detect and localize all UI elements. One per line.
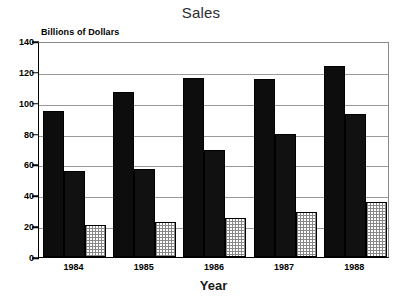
bar-1987-series-3 — [296, 212, 317, 257]
bar-1987-series-2 — [275, 134, 296, 257]
x-tick-label: 1984 — [44, 262, 104, 272]
bar-group — [250, 43, 320, 257]
y-axis-title: Billions of Dollars — [41, 27, 119, 37]
bar-1984-series-3 — [85, 225, 106, 257]
bar-group — [39, 43, 109, 257]
sales-bar-chart: Sales Billions of Dollars 02040608010012… — [0, 0, 402, 307]
x-tick-label: 1985 — [114, 262, 174, 272]
bar-1984-series-1 — [43, 111, 64, 257]
plot-area — [38, 42, 389, 258]
bar-1986-series-2 — [204, 150, 225, 257]
bar-group — [320, 43, 390, 257]
bar-1986-series-3 — [225, 218, 246, 257]
bar-1986-series-1 — [183, 78, 204, 257]
bar-1987-series-1 — [254, 79, 275, 257]
bar-1988-series-3 — [366, 202, 387, 257]
bar-1985-series-2 — [134, 169, 155, 257]
x-tick-label: 1986 — [184, 262, 244, 272]
bar-group — [179, 43, 249, 257]
bar-1984-series-2 — [64, 171, 85, 257]
x-tick-label: 1987 — [254, 262, 314, 272]
x-axis-title: Year — [38, 278, 389, 293]
y-axis-tick-labels: 020406080100120140 — [0, 42, 34, 258]
bar-1988-series-1 — [324, 66, 345, 257]
chart-title: Sales — [0, 4, 402, 21]
bar-1985-series-3 — [155, 222, 176, 257]
bars-layer — [39, 43, 388, 257]
bar-1988-series-2 — [345, 114, 366, 257]
bar-group — [109, 43, 179, 257]
x-tick-label: 1988 — [324, 262, 384, 272]
bar-1985-series-1 — [113, 92, 134, 257]
x-axis-tick-labels: 19841985198619871988 — [38, 262, 389, 276]
